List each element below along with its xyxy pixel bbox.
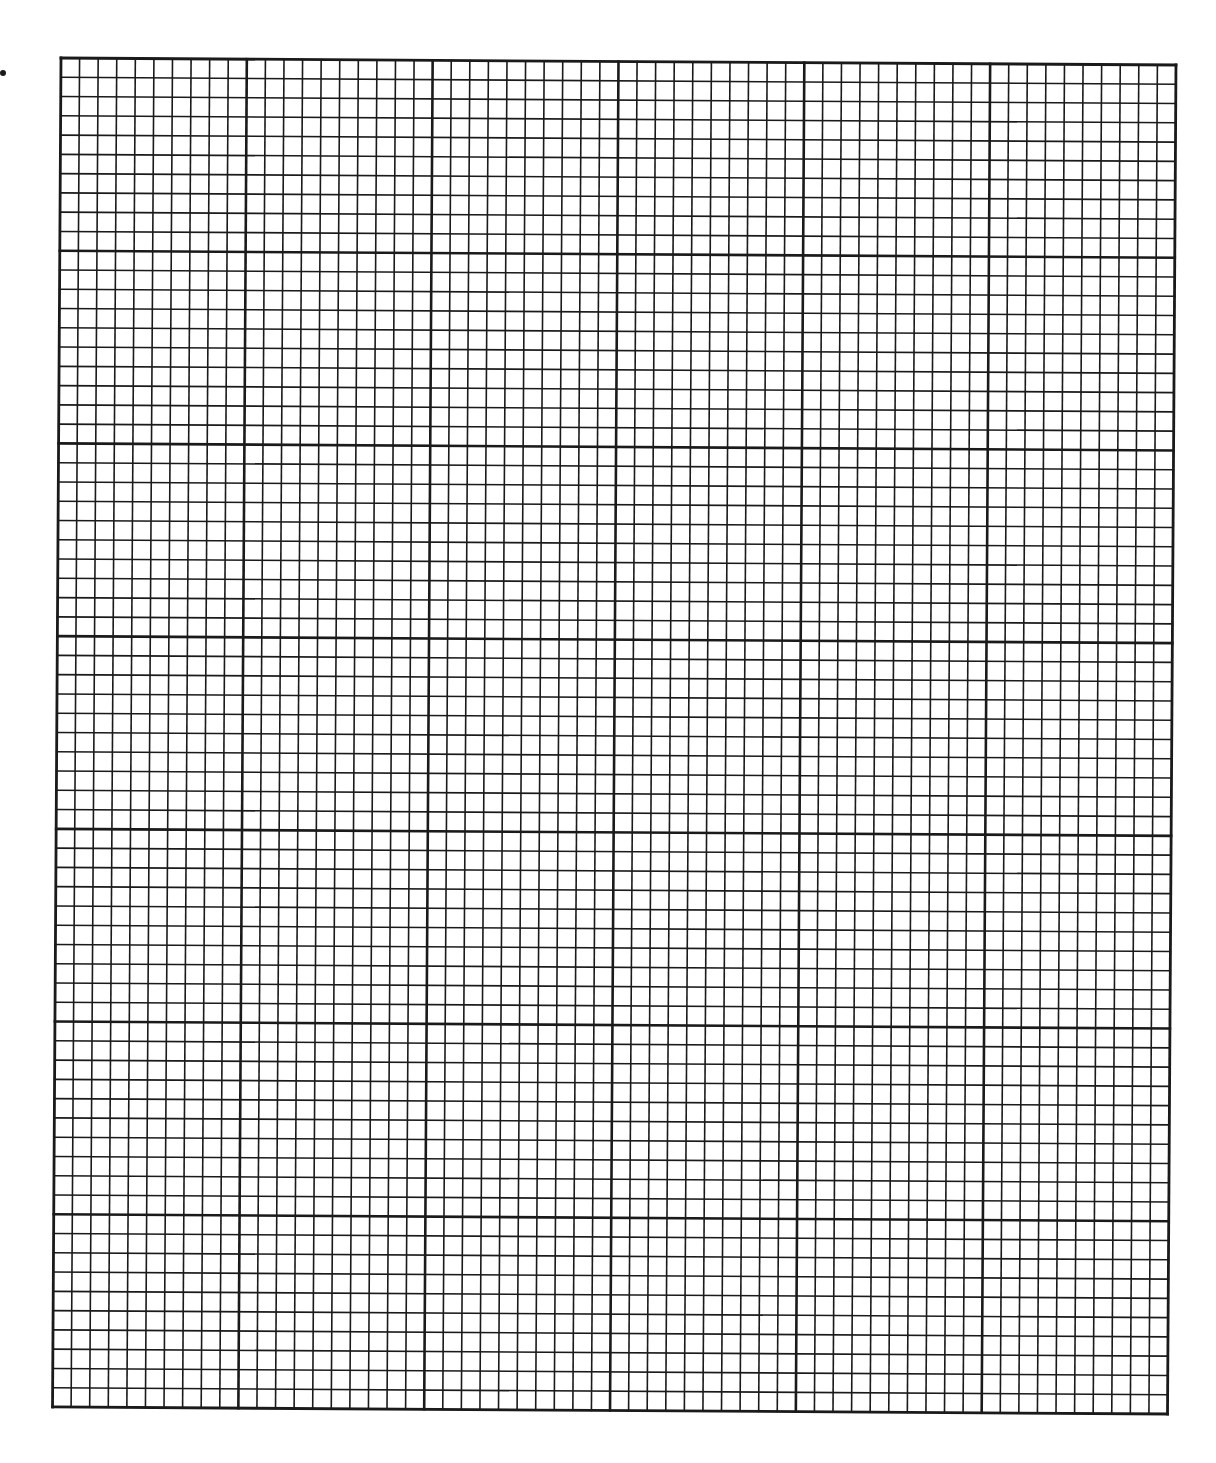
grid-lines: [53, 58, 1176, 1414]
graph-paper-grid: [0, 0, 1216, 1463]
